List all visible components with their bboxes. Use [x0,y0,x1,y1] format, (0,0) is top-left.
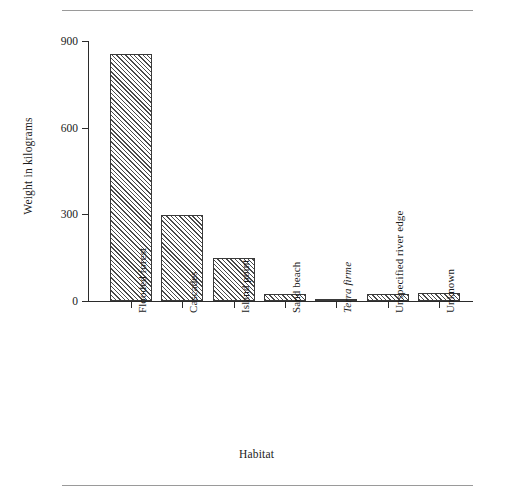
x-axis-tick [336,302,337,308]
x-axis-tick-label: Terra firme [341,262,353,313]
x-axis-tick-label: Unknown [444,269,456,313]
x-axis-tick [234,302,235,308]
x-axis-title: Habitat [0,448,513,460]
y-axis-tick-label: 600 [34,122,78,134]
y-axis-tick [82,41,88,42]
x-axis-tick-label: Cascades [187,271,199,313]
x-axis-tick [439,302,440,308]
x-axis-tick [285,302,286,308]
y-axis-tick [82,214,88,215]
x-axis-tick [131,302,132,308]
bar-chart-figure: Weight in kilograms 0300600900 Flooded f… [0,0,513,495]
x-axis-tick-label: Sand beach [290,262,302,313]
x-axis-tick [388,302,389,308]
x-axis-tick-label: Island point [239,260,251,313]
y-axis-tick-label: 900 [34,35,78,47]
x-axis-tick-label: Unspecified river edge [393,211,405,313]
y-axis-tick [82,128,88,129]
y-axis-tick-label: 300 [34,208,78,220]
x-axis-tick [182,302,183,308]
x-axis-tick-label: Flooded forest [136,248,148,313]
y-axis-title: Weight in kilograms [22,86,34,246]
y-axis-line [88,41,89,302]
y-axis-tick [82,301,88,302]
y-axis-tick-label: 0 [34,295,78,307]
